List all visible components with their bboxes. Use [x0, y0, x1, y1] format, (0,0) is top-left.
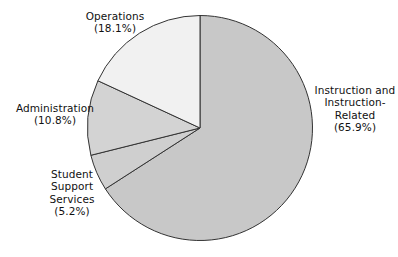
pie-chart: Instruction and Instruction- Related (65…	[0, 0, 398, 257]
pie-label-instruction: Instruction and Instruction- Related (65…	[312, 84, 398, 134]
pie-label-student-support-services: Student Support Services (5.2%)	[36, 168, 108, 218]
pie-label-operations: Operations (18.1%)	[60, 10, 170, 35]
pie-label-administration: Administration (10.8%)	[2, 102, 108, 127]
pie-slices	[88, 16, 313, 241]
